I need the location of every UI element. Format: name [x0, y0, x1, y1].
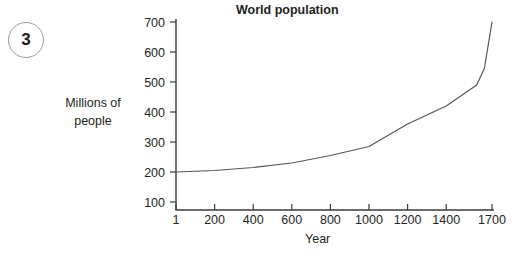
population-line — [176, 22, 492, 172]
y-tick-label: 600 — [144, 46, 165, 60]
x-tick-label: 600 — [281, 213, 302, 227]
y-tick-label: 700 — [144, 16, 165, 30]
x-tick-label: 1000 — [355, 213, 383, 227]
y-tick-label: 400 — [144, 106, 165, 120]
x-tick-label: 200 — [204, 213, 225, 227]
y-axis-ticks: 100200300400500600700 — [144, 16, 176, 210]
y-tick-label: 200 — [144, 166, 165, 180]
x-tick-label: 400 — [243, 213, 264, 227]
chart-figure: 3 World population Millions of people Ye… — [0, 0, 531, 259]
y-tick-label: 500 — [144, 76, 165, 90]
x-tick-label: 1400 — [432, 213, 460, 227]
x-axis-ticks: 12004006008001000120014001700 — [173, 204, 506, 227]
plot-area: 100200300400500600700 120040060080010001… — [0, 0, 531, 259]
y-tick-label: 300 — [144, 136, 165, 150]
x-tick-label: 1200 — [394, 213, 422, 227]
axis-lines — [176, 19, 494, 210]
y-tick-label: 100 — [144, 196, 165, 210]
x-tick-label: 1 — [173, 213, 180, 227]
x-tick-label: 800 — [320, 213, 341, 227]
x-tick-label: 1700 — [478, 213, 506, 227]
